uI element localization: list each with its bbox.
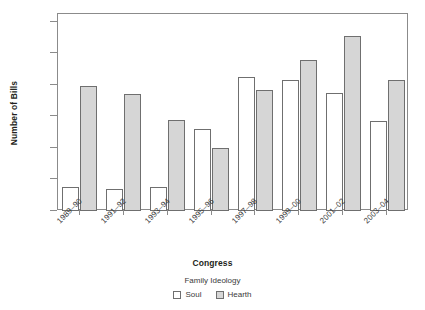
bar-hearth-1991-92 (124, 94, 141, 211)
y-axis-tick (50, 178, 57, 179)
x-axis-tick (254, 210, 255, 215)
bar-soul-1997-98 (238, 77, 255, 211)
bar-hearth-2001-02 (344, 36, 361, 211)
bar-hearth-1997-98 (256, 90, 273, 211)
bars-layer (58, 14, 407, 209)
legend-item-label: Hearth (228, 290, 252, 299)
x-axis-tick (123, 210, 124, 215)
legend-item-hearth: Hearth (216, 290, 252, 299)
y-axis-tick (50, 210, 57, 211)
x-axis-title: Congress (0, 258, 425, 268)
bar-soul-1999-00 (282, 80, 299, 211)
x-axis-tick (211, 210, 212, 215)
y-axis-tick (50, 84, 57, 85)
plot-area (57, 13, 408, 210)
y-axis-tick (50, 52, 57, 53)
bar-hearth-2003-04 (388, 80, 405, 211)
bar-hearth-1993-94 (168, 120, 185, 211)
y-axis-tick (50, 21, 57, 22)
x-axis-tick (167, 210, 168, 215)
bar-hearth-1999-00 (300, 60, 317, 211)
x-axis-tick (79, 210, 80, 215)
y-axis-tick (50, 147, 57, 148)
legend-item-label: Soul (185, 290, 201, 299)
x-axis-tick (386, 210, 387, 215)
bar-chart: Number of Bills 020406080100120 1989–901… (0, 0, 425, 310)
bar-soul-2001-02 (326, 93, 343, 211)
x-axis-tick (342, 210, 343, 215)
legend-title: Family Ideology (0, 276, 425, 285)
legend-item-soul: Soul (173, 290, 201, 299)
legend: SoulHearth (0, 290, 425, 299)
y-axis-title: Number of Bills (9, 68, 19, 158)
x-axis-tick (298, 210, 299, 215)
legend-swatch-icon (216, 291, 224, 299)
legend-swatch-icon (173, 291, 181, 299)
y-axis-tick (50, 115, 57, 116)
bar-hearth-1989-90 (80, 86, 97, 211)
